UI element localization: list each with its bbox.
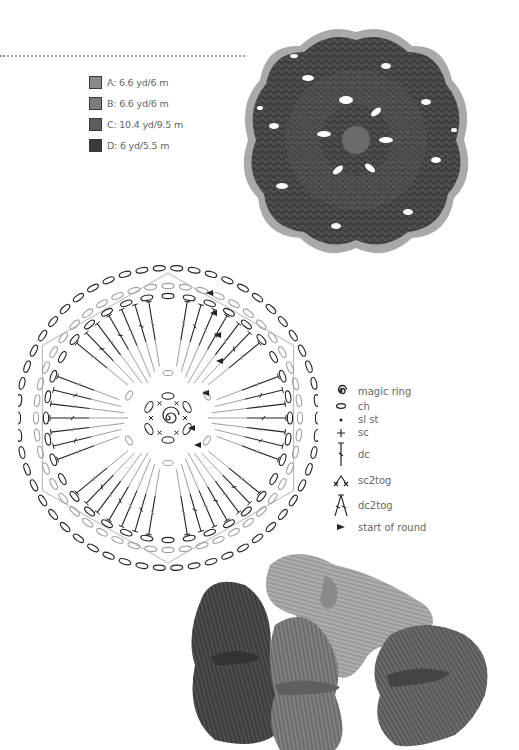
- yarn-legend-item-a: A: 6.6 yd/6 m: [89, 72, 183, 93]
- key-label: sl st: [358, 414, 378, 425]
- single-crochet-icon: [330, 428, 352, 438]
- crochet-chart-diagram: [18, 253, 318, 583]
- yarn-amount-b: B: 6.6 yd/6 m: [107, 98, 168, 109]
- dc2tog-icon: [330, 493, 352, 517]
- key-label: ch: [358, 401, 370, 412]
- yarn-legend-item-c: C: 10.4 yd/9.5 m: [89, 114, 183, 135]
- double-crochet-icon: [330, 441, 352, 467]
- swatch-b: [89, 97, 102, 110]
- key-label: sc2tog: [358, 475, 391, 486]
- magic-ring-icon: [330, 384, 352, 398]
- swatch-c: [89, 118, 102, 131]
- key-item-magic-ring: magic ring: [330, 383, 426, 399]
- yarn-legend-item-d: D: 6 yd/5.5 m: [89, 135, 183, 156]
- key-label: sc: [358, 427, 369, 438]
- key-label: dc: [358, 449, 370, 460]
- section-divider: [0, 55, 245, 57]
- key-item-slip-stitch: sl st: [330, 413, 426, 426]
- key-item-sc: sc: [330, 426, 426, 439]
- key-item-start-of-round: start of round: [330, 519, 426, 535]
- key-label: start of round: [358, 522, 426, 533]
- chain-icon: [330, 402, 352, 410]
- finished-motif-photo: [222, 18, 490, 260]
- yarn-amount-c: C: 10.4 yd/9.5 m: [107, 119, 183, 130]
- yarn-legend-item-b: B: 6.6 yd/6 m: [89, 93, 183, 114]
- sc2tog-icon: [330, 473, 352, 487]
- swatch-a: [89, 76, 102, 89]
- key-label: dc2tog: [358, 500, 393, 511]
- yarn-legend: A: 6.6 yd/6 m B: 6.6 yd/6 m C: 10.4 yd/9…: [89, 72, 183, 156]
- key-item-sc2tog: sc2tog: [330, 469, 426, 491]
- start-of-round-icon: [330, 523, 352, 531]
- stitch-key: magic ring ch sl st sc dc sc2tog dc2to: [330, 383, 426, 535]
- yarn-bundles-photo: [175, 545, 519, 750]
- slip-stitch-icon: [330, 417, 352, 423]
- yarn-amount-a: A: 6.6 yd/6 m: [107, 77, 168, 88]
- yarn-amount-d: D: 6 yd/5.5 m: [107, 140, 169, 151]
- key-label: magic ring: [358, 386, 411, 397]
- key-item-dc: dc: [330, 439, 426, 469]
- swatch-d: [89, 139, 102, 152]
- key-item-chain: ch: [330, 399, 426, 413]
- key-item-dc2tog: dc2tog: [330, 491, 426, 519]
